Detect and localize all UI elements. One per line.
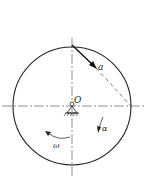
alpha-arrowhead-icon bbox=[97, 126, 101, 133]
acceleration-label: a bbox=[98, 62, 103, 72]
center-label-O: O bbox=[74, 95, 82, 105]
alpha-label: α bbox=[102, 124, 108, 133]
disk-diagram: a O ω α bbox=[0, 0, 152, 187]
omega-label: ω bbox=[53, 141, 60, 150]
omega-arrowhead-icon bbox=[45, 131, 51, 136]
dashed-chord bbox=[96, 68, 131, 106]
omega-arc bbox=[48, 133, 70, 138]
